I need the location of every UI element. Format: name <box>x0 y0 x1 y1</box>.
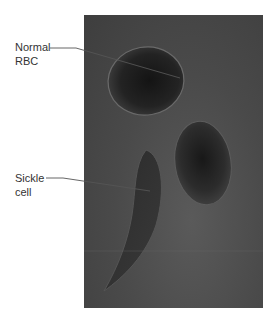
label-normal-rbc: Normal RBC <box>15 40 50 68</box>
label-sickle-line1: Sickle <box>15 171 44 185</box>
label-sickle-cell: Sickle cell <box>15 171 44 199</box>
label-normal-line1: Normal <box>15 40 50 54</box>
label-normal-line2: RBC <box>15 54 50 68</box>
label-sickle-line2: cell <box>15 185 44 199</box>
